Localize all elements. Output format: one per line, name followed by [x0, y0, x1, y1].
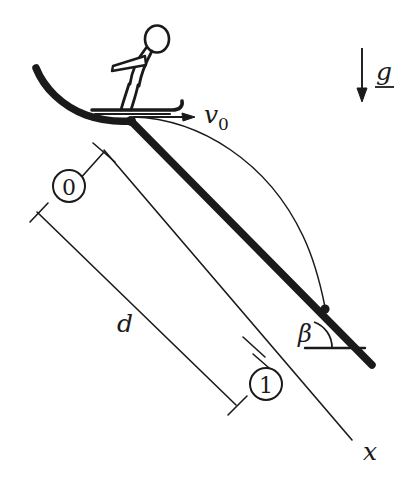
initial-velocity-subscript: 0 — [218, 114, 229, 134]
x-axis-label: x — [363, 437, 377, 466]
skier-leg-front — [131, 85, 138, 110]
ski — [92, 101, 182, 110]
skier-leg-back — [121, 84, 129, 110]
velocity-arrow-head — [182, 113, 195, 121]
inclined-slope — [131, 121, 372, 365]
state-0-label: 0 — [62, 175, 76, 200]
projectile-trajectory — [133, 117, 325, 307]
ski-jump-diagram: g v 0 x 0 1 d β — [0, 0, 417, 482]
beta-angle-label: β — [297, 320, 312, 348]
skier-head — [145, 26, 169, 53]
state-1-label: 1 — [259, 373, 273, 398]
distance-label: d — [117, 309, 133, 338]
landing-point-marker — [320, 304, 329, 313]
distance-tick-end — [228, 396, 247, 415]
diagram-canvas: g v 0 x 0 1 d β — [0, 0, 417, 482]
gravity-label: g — [376, 57, 392, 86]
state-0-tick — [93, 143, 115, 162]
gravity-arrow-head — [357, 88, 367, 102]
distance-dimension-line — [37, 212, 236, 405]
initial-velocity-label: v — [204, 100, 218, 129]
skier-arm — [112, 56, 146, 71]
